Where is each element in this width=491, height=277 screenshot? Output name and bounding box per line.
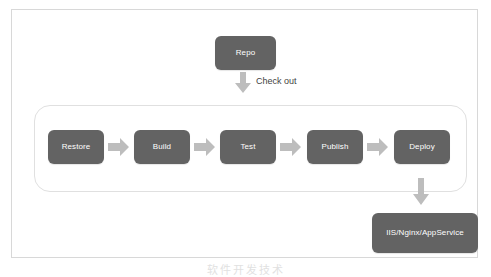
- diagram-panel: Repo Check out Restore Build Test: [11, 9, 478, 258]
- arrow-right-icon: [194, 138, 216, 156]
- node-stage-deploy[interactable]: Deploy: [394, 130, 450, 164]
- node-stage-build[interactable]: Build: [134, 130, 190, 164]
- arrow-down-icon: [234, 72, 252, 94]
- arrow-right-icon: [367, 138, 389, 156]
- node-stage-restore[interactable]: Restore: [48, 130, 104, 164]
- watermark-text: 软件开发技术: [0, 261, 491, 277]
- node-repo[interactable]: Repo: [215, 36, 276, 70]
- arrow-right-icon: [108, 138, 130, 156]
- edge-label-check-out: Check out: [256, 76, 297, 86]
- arrow-right-icon: [280, 138, 302, 156]
- node-stage-test[interactable]: Test: [220, 130, 276, 164]
- node-stage-publish[interactable]: Publish: [307, 130, 363, 164]
- arrow-down-icon: [412, 178, 430, 206]
- node-deployment-target[interactable]: IIS/Nginx/AppService: [372, 213, 478, 253]
